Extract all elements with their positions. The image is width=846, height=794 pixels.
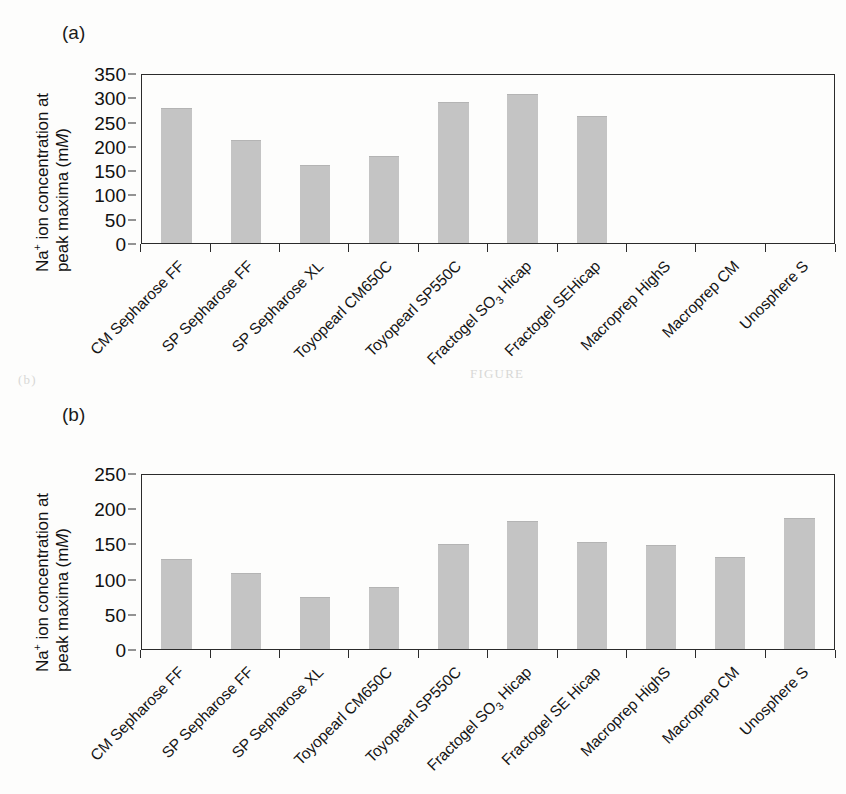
y-tick-mark bbox=[128, 195, 136, 196]
x-tick-mark bbox=[348, 650, 349, 658]
x-tick-mark bbox=[210, 244, 211, 252]
x-tick-slot bbox=[766, 244, 835, 252]
y-tick-label: 150 bbox=[94, 162, 126, 181]
y-tick-label: 250 bbox=[94, 113, 126, 132]
bar-slot bbox=[488, 75, 557, 243]
bar bbox=[369, 156, 399, 243]
x-tick-mark bbox=[487, 650, 488, 658]
x-tick-slot bbox=[141, 650, 210, 658]
y-tick-mark bbox=[128, 544, 136, 545]
bar-slot bbox=[696, 475, 765, 649]
bar-series-a bbox=[142, 75, 834, 243]
x-tick-slot bbox=[696, 650, 765, 658]
y-tick-label: 250 bbox=[94, 465, 126, 484]
ghost-bleed-text-left: (b) bbox=[18, 372, 37, 388]
bar-slot bbox=[626, 475, 695, 649]
panel-label-a: (a) bbox=[62, 22, 85, 44]
x-tick-slot bbox=[419, 244, 488, 252]
y-tick-mark bbox=[128, 474, 136, 475]
x-tick-mark bbox=[765, 650, 766, 658]
x-tick-mark bbox=[279, 244, 280, 252]
x-tick-mark bbox=[626, 650, 627, 658]
bar-slot bbox=[350, 475, 419, 649]
x-tick-mark bbox=[418, 244, 419, 252]
y-tick-mark bbox=[128, 74, 136, 75]
bar bbox=[646, 545, 676, 649]
x-tick-mark bbox=[765, 244, 766, 252]
x-tick-mark bbox=[140, 244, 141, 252]
y-tick-label: 300 bbox=[94, 89, 126, 108]
x-tick-slot bbox=[557, 244, 626, 252]
bar bbox=[507, 521, 537, 649]
y-axis-ticks-b: 050100150200250 bbox=[36, 474, 136, 650]
bar-slot bbox=[696, 75, 765, 243]
y-tick-mark bbox=[128, 650, 136, 651]
x-tick-mark bbox=[210, 650, 211, 658]
y-tick-mark bbox=[128, 98, 136, 99]
x-tick-mark bbox=[557, 244, 558, 252]
x-tick-slot bbox=[349, 650, 418, 658]
bar-slot bbox=[419, 75, 488, 243]
bar-slot bbox=[765, 75, 834, 243]
x-tick-slot bbox=[488, 244, 557, 252]
panel-label-b: (b) bbox=[62, 404, 85, 426]
y-tick-label: 50 bbox=[105, 210, 126, 229]
bar-slot bbox=[557, 75, 626, 243]
bar bbox=[231, 573, 261, 649]
bar-series-b bbox=[142, 475, 834, 649]
x-tick-slot bbox=[210, 650, 279, 658]
bar-slot bbox=[142, 475, 211, 649]
x-tick-mark bbox=[835, 244, 836, 252]
y-tick-label: 0 bbox=[115, 641, 126, 660]
x-tick-slot bbox=[557, 650, 626, 658]
plot-area-b bbox=[141, 474, 835, 650]
x-tick-slot bbox=[141, 244, 210, 252]
y-tick-label: 350 bbox=[94, 65, 126, 84]
bar bbox=[577, 542, 607, 649]
bar-slot bbox=[142, 75, 211, 243]
y-tick-mark bbox=[128, 579, 136, 580]
x-tick-mark bbox=[140, 650, 141, 658]
bar bbox=[784, 518, 814, 649]
bar bbox=[438, 102, 468, 243]
y-tick-label: 200 bbox=[94, 137, 126, 156]
y-axis-title-a-na: Na bbox=[33, 250, 52, 272]
y-tick-label: 100 bbox=[94, 186, 126, 205]
bar-slot bbox=[211, 75, 280, 243]
y-tick-mark bbox=[128, 244, 136, 245]
bar bbox=[438, 544, 468, 649]
x-tick-mark bbox=[695, 650, 696, 658]
y-tick-mark bbox=[128, 219, 136, 220]
y-tick-label: 0 bbox=[115, 235, 126, 254]
x-tick-slot bbox=[210, 244, 279, 252]
y-tick-label: 50 bbox=[105, 605, 126, 624]
y-axis-ticks-a: 050100150200250300350 bbox=[36, 74, 136, 244]
bar bbox=[161, 108, 191, 243]
x-tick-mark bbox=[487, 244, 488, 252]
x-tick-mark bbox=[279, 650, 280, 658]
x-tick-slot bbox=[349, 244, 418, 252]
x-tick-slot bbox=[280, 244, 349, 252]
bar bbox=[715, 557, 745, 649]
bar-slot bbox=[280, 75, 349, 243]
x-axis-ticks-a bbox=[141, 244, 835, 252]
bar bbox=[369, 587, 399, 649]
x-label-slot: Unosphere S bbox=[766, 254, 835, 374]
bar-slot bbox=[488, 475, 557, 649]
y-axis-title-b-na: Na bbox=[33, 650, 52, 672]
figure-page: (b) FIGURE (a) Na+ ion concentration at … bbox=[0, 0, 846, 794]
y-tick-mark bbox=[128, 614, 136, 615]
x-tick-slot bbox=[627, 650, 696, 658]
y-tick-mark bbox=[128, 146, 136, 147]
x-axis-labels-a: CM Sepharose FFSP Sepharose FFSP Sepharo… bbox=[141, 254, 835, 374]
chart-panel-a: (a) Na+ ion concentration at peak maxima… bbox=[0, 22, 846, 372]
y-axis-title-a-superscript: + bbox=[31, 244, 43, 250]
bar-slot bbox=[350, 75, 419, 243]
y-tick-label: 150 bbox=[94, 535, 126, 554]
x-tick-slot bbox=[488, 650, 557, 658]
y-tick-mark bbox=[128, 122, 136, 123]
y-tick-label: 100 bbox=[94, 570, 126, 589]
bar-slot bbox=[765, 475, 834, 649]
bar-slot bbox=[419, 475, 488, 649]
x-tick-mark bbox=[557, 650, 558, 658]
